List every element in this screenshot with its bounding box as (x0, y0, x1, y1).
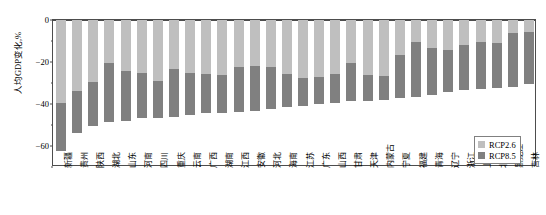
x-tick-label: 海南 (289, 152, 298, 168)
legend-label: RCP2.6 (489, 140, 516, 150)
bar-group[interactable] (104, 20, 114, 165)
x-tick-label: 河北 (273, 152, 282, 168)
bar-group[interactable] (411, 20, 421, 165)
bar-rcp85[interactable] (459, 45, 469, 90)
bar-group[interactable] (185, 20, 195, 165)
x-tick-label: 吉林 (531, 152, 540, 168)
bar-rcp85[interactable] (476, 42, 486, 89)
bar-group[interactable] (217, 20, 227, 165)
bar-rcp85[interactable] (524, 32, 534, 85)
x-tick-label: 天津 (370, 152, 379, 168)
legend-label: RCP8.5 (489, 151, 516, 161)
bar-group[interactable] (266, 20, 276, 165)
x-tick-label: 江苏 (306, 152, 315, 168)
bar-group[interactable] (282, 20, 292, 165)
bar-group[interactable] (427, 20, 437, 165)
y-tick-mark (50, 20, 54, 21)
bar-rcp85[interactable] (427, 48, 437, 94)
x-tick-label: 江西 (241, 152, 250, 168)
bar-group[interactable] (153, 20, 163, 165)
bar-group[interactable] (443, 20, 453, 165)
bar-rcp85[interactable] (72, 91, 82, 133)
y-tick-label: −20 (36, 57, 49, 67)
legend-item[interactable]: RCP8.5 (478, 150, 516, 161)
y-tick-mark (50, 104, 54, 105)
x-tick-label: 内蒙古 (386, 144, 395, 168)
bar-group[interactable] (121, 20, 131, 165)
bar-group[interactable] (250, 20, 260, 165)
bar-rcp85[interactable] (346, 63, 356, 101)
bar-group[interactable] (459, 20, 469, 165)
bar-group[interactable] (201, 20, 211, 165)
chart-legend: RCP2.6RCP8.5 (474, 136, 521, 164)
bar-group[interactable] (298, 20, 308, 165)
legend-swatch-icon (478, 152, 485, 159)
bar-group[interactable] (314, 20, 324, 165)
y-minor-tick-mark (51, 83, 53, 84)
bar-group[interactable] (72, 20, 82, 165)
bar-rcp85[interactable] (234, 67, 244, 112)
x-tick-label: 山东 (128, 152, 137, 168)
x-tick-label: 广东 (322, 152, 331, 168)
bar-group[interactable] (330, 20, 340, 165)
x-tick-label: 福建 (419, 152, 428, 168)
y-minor-tick-mark (51, 41, 53, 42)
x-tick-label: 新疆 (64, 152, 73, 168)
bar-rcp85[interactable] (492, 43, 502, 88)
bar-rcp85[interactable] (121, 71, 131, 120)
bar-rcp85[interactable] (379, 76, 389, 100)
bar-group[interactable] (346, 20, 356, 165)
y-tick-label: −40 (36, 99, 49, 109)
x-tick-label: 重庆 (177, 152, 186, 168)
legend-swatch-icon (478, 141, 485, 148)
bar-rcp85[interactable] (88, 82, 98, 126)
bar-group[interactable] (524, 20, 534, 165)
bar-group[interactable] (363, 20, 373, 165)
x-tick-label: 贵州 (80, 152, 89, 168)
bar-rcp85[interactable] (217, 75, 227, 114)
bar-rcp85[interactable] (201, 74, 211, 114)
bar-group[interactable] (56, 20, 66, 165)
plot-area: 0−20−40−60 (52, 19, 536, 166)
x-tick-label: 云南 (193, 152, 202, 168)
bar-rcp85[interactable] (298, 78, 308, 106)
x-tick-label: 广西 (209, 152, 218, 168)
bar-rcp85[interactable] (330, 74, 340, 103)
y-minor-tick-mark (51, 125, 53, 126)
bar-group[interactable] (169, 20, 179, 165)
bar-rcp85[interactable] (443, 50, 453, 92)
bar-rcp85[interactable] (137, 73, 147, 118)
y-tick-label: −60 (36, 141, 49, 151)
bar-rcp85[interactable] (104, 63, 114, 122)
bar-rcp85[interactable] (169, 69, 179, 116)
x-tick-label: 甘肃 (354, 152, 363, 168)
bar-rcp85[interactable] (411, 42, 421, 97)
bar-rcp85[interactable] (266, 67, 276, 109)
chart-figure: 人均GDP变化,% 0−20−40−60 新疆贵州陕西湖北山东河南四川重庆云南广… (0, 0, 546, 215)
bar-rcp85[interactable] (282, 74, 292, 108)
bar-rcp85[interactable] (395, 55, 405, 98)
y-tick-mark (50, 146, 54, 147)
bar-rcp85[interactable] (363, 75, 373, 101)
bar-rcp85[interactable] (153, 81, 163, 118)
y-tick-label: 0 (45, 15, 49, 25)
bar-group[interactable] (395, 20, 405, 165)
bar-group[interactable] (234, 20, 244, 165)
bar-rcp85[interactable] (314, 77, 324, 104)
y-tick-mark (50, 62, 54, 63)
x-tick-label: 宁夏 (402, 152, 411, 168)
x-tick-label: 陕西 (96, 152, 105, 168)
bar-group[interactable] (137, 20, 147, 165)
x-tick-label: 安徽 (257, 152, 266, 168)
x-tick-label: 湖北 (112, 152, 121, 168)
bar-rcp85[interactable] (250, 66, 260, 111)
x-tick-label: 河南 (144, 152, 153, 168)
legend-item[interactable]: RCP2.6 (478, 139, 516, 150)
bar-rcp85[interactable] (56, 103, 66, 151)
x-tick-label: 山西 (338, 152, 347, 168)
x-tick-label: 四川 (160, 152, 169, 168)
y-axis-title: 人均GDP变化,% (13, 3, 23, 123)
bar-rcp85[interactable] (508, 33, 518, 88)
bar-rcp85[interactable] (185, 73, 195, 115)
bar-group[interactable] (88, 20, 98, 165)
